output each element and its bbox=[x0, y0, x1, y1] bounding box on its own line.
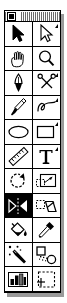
magnifier-icon bbox=[37, 49, 56, 68]
palette-window-frame: Selection Arrow Reshape Arrow Hand bbox=[4, 10, 61, 293]
tool-marquee[interactable]: Selection Marquee bbox=[33, 267, 61, 292]
tool-options-tick-icon bbox=[55, 24, 58, 28]
arrow-pointer-icon bbox=[10, 24, 27, 43]
tool-hand[interactable]: Hand bbox=[5, 47, 33, 72]
close-box-icon[interactable] bbox=[7, 12, 16, 21]
tool-options-tick-icon bbox=[55, 122, 58, 126]
paintbrush-icon bbox=[9, 97, 28, 117]
titlebar-gap bbox=[16, 11, 21, 22]
magic-wand-icon bbox=[8, 245, 29, 265]
pen-nib-icon bbox=[11, 73, 26, 93]
bar-chart-icon bbox=[7, 270, 29, 289]
rotate-arrow-icon bbox=[9, 172, 28, 191]
tool-options-tick-icon bbox=[55, 73, 58, 77]
tool-flip[interactable]: Flip / Mirror bbox=[5, 194, 33, 219]
tool-zoom[interactable]: Magnifier bbox=[33, 47, 61, 72]
text-t-icon bbox=[38, 147, 54, 166]
window-titlebar[interactable] bbox=[5, 11, 60, 22]
blend-shapes-icon bbox=[35, 245, 57, 265]
tool-reshape[interactable]: Reshape Arrow bbox=[33, 22, 61, 47]
tool-ruler[interactable]: Ruler bbox=[5, 145, 33, 170]
tool-skew[interactable]: Skew / Slant bbox=[33, 194, 61, 219]
tool-eyedropper[interactable]: Eyedropper bbox=[33, 218, 61, 243]
tool-rectangle[interactable]: Rectangle bbox=[33, 120, 61, 145]
tool-text[interactable]: Text bbox=[33, 145, 61, 170]
flip-mirror-icon bbox=[7, 197, 29, 215]
tool-crop[interactable]: Crop / Resize bbox=[33, 169, 61, 194]
tool-gradient[interactable]: Gradient / Chart bbox=[5, 267, 33, 292]
tool-ellipse[interactable]: Ellipse bbox=[5, 120, 33, 145]
tool-brush[interactable]: Paintbrush bbox=[5, 96, 33, 121]
tool-pen[interactable]: Pen bbox=[5, 71, 33, 96]
paint-bucket-icon bbox=[8, 220, 29, 240]
ellipse-icon bbox=[7, 124, 30, 140]
tool-scissors[interactable]: Scissors bbox=[33, 71, 61, 96]
freehand-curve-icon bbox=[36, 98, 57, 116]
tool-freehand[interactable]: Freehand Line bbox=[33, 96, 61, 121]
tool-options-tick-icon bbox=[55, 98, 58, 102]
tool-options-tick-icon bbox=[55, 147, 58, 151]
tool-palette-window: Selection Arrow Reshape Arrow Hand bbox=[0, 0, 67, 303]
tool-rotate[interactable]: Rotate bbox=[5, 169, 33, 194]
skew-parallelogram-icon bbox=[35, 197, 57, 215]
dashed-marquee-icon bbox=[36, 270, 57, 289]
tool-grid: Selection Arrow Reshape Arrow Hand bbox=[5, 22, 60, 292]
hand-icon bbox=[9, 49, 28, 68]
tool-wand[interactable]: Magic Wand bbox=[5, 243, 33, 268]
rectangle-icon bbox=[36, 124, 56, 140]
tool-arrow[interactable]: Selection Arrow bbox=[5, 22, 33, 47]
scissors-icon bbox=[37, 73, 56, 92]
tool-blend[interactable]: Blend / Morph bbox=[33, 243, 61, 268]
tool-bucket[interactable]: Paint Bucket bbox=[5, 218, 33, 243]
ruler-icon bbox=[8, 146, 29, 167]
crop-resize-icon bbox=[35, 172, 57, 190]
arrow-reshape-icon bbox=[38, 24, 55, 43]
eyedropper-icon bbox=[37, 220, 56, 240]
